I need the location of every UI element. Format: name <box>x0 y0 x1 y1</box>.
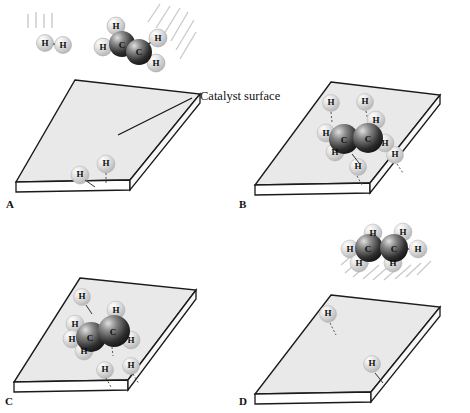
svg-text:H: H <box>101 364 108 374</box>
panel-c-graphics: H H H H H H <box>0 258 235 413</box>
atom-label-h: H <box>41 38 48 48</box>
panel-label-c: C <box>5 395 13 407</box>
svg-text:H: H <box>68 334 75 344</box>
svg-text:C: C <box>391 244 398 254</box>
svg-text:H: H <box>102 158 109 168</box>
atom-label-h: H <box>99 42 106 52</box>
svg-text:H: H <box>80 346 87 356</box>
svg-text:C: C <box>110 327 117 337</box>
svg-text:H: H <box>324 308 331 318</box>
catalyst-slab <box>255 295 440 404</box>
catalyst-slab <box>16 80 200 192</box>
svg-text:H: H <box>76 169 83 179</box>
svg-text:H: H <box>381 138 388 148</box>
svg-text:H: H <box>112 305 119 315</box>
svg-text:C: C <box>341 135 348 145</box>
svg-text:H: H <box>414 244 421 254</box>
svg-text:H: H <box>127 360 134 370</box>
motion-lines-vertical-icon <box>28 12 52 28</box>
svg-text:H: H <box>322 128 329 138</box>
molecule-h2-gas: H H <box>37 35 72 54</box>
atom-label-h: H <box>154 33 161 43</box>
svg-text:H: H <box>346 244 353 254</box>
svg-text:H: H <box>71 319 78 329</box>
atom-label-h: H <box>59 40 66 50</box>
atom-label-h: H <box>152 58 159 68</box>
panel-label-d: D <box>239 395 247 407</box>
svg-text:C: C <box>87 333 94 343</box>
svg-text:H: H <box>391 149 398 159</box>
panel-b-graphics: H H H H H <box>235 70 470 215</box>
svg-text:C: C <box>365 134 372 144</box>
svg-text:H: H <box>372 115 379 125</box>
svg-text:H: H <box>368 358 375 368</box>
panel-label-a: A <box>6 198 14 210</box>
svg-text:H: H <box>389 258 396 268</box>
svg-text:H: H <box>355 258 362 268</box>
svg-text:H: H <box>327 97 334 107</box>
svg-text:C: C <box>365 244 372 254</box>
atom-label-h: H <box>112 21 119 31</box>
svg-text:H: H <box>399 227 406 237</box>
svg-text:H: H <box>369 228 376 238</box>
molecule-c2h4-gas: H H H H C C <box>94 17 167 72</box>
figure-canvas: H H H H H H <box>0 0 470 413</box>
panel-d: H H H H H H C C H H D <box>235 215 470 413</box>
svg-text:H: H <box>361 96 368 106</box>
svg-text:H: H <box>127 335 134 345</box>
panel-a-graphics: H H H H H H <box>0 0 235 215</box>
panel-label-b: B <box>239 198 246 210</box>
molecule-c2h6-gas: H H H H H H C C <box>341 223 427 272</box>
panel-d-graphics: H H H H H H C C H H <box>235 215 470 413</box>
svg-text:H: H <box>78 291 85 301</box>
svg-text:H: H <box>331 147 338 157</box>
atom-label-c: C <box>136 47 143 57</box>
panel-b: H H H H H <box>235 70 470 215</box>
atom-label-c: C <box>119 40 126 50</box>
panel-a: H H H H H H <box>0 0 235 215</box>
panel-c: H H H H H H <box>0 258 235 413</box>
